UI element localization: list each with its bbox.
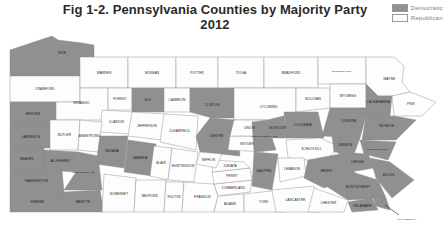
county-label-chester: CHESTER xyxy=(321,201,338,205)
county-label-butler: BUTLER xyxy=(58,133,72,137)
county-label-forest: FOREST xyxy=(113,97,127,101)
pa-county-map: ERIECRAWFORDMERCERLAWRENCEBEAVERWASHINGT… xyxy=(0,0,446,225)
county-label-snyder: SNYDER xyxy=(240,142,254,146)
county-label-huntingdon: HUNTINGDON xyxy=(172,164,195,168)
county-label-fulton: FULTON xyxy=(167,195,181,199)
county-label-wyoming: WYOMING xyxy=(340,94,357,98)
county-label-northampton: NORTHAMPTON xyxy=(367,148,388,151)
county-label-mifflin: MIFFLIN xyxy=(202,158,216,162)
county-label-monroe: MONROE xyxy=(379,124,394,128)
county-label-cameron: CAMERON xyxy=(169,98,187,102)
county-label-adams: ADAMS xyxy=(224,202,236,206)
county-label-indiana: INDIANA xyxy=(105,149,119,153)
county-label-washington: WASHINGTON xyxy=(25,179,48,183)
county-label-susquehanna: SUSQUEHANNA xyxy=(332,70,353,73)
county-label-lebanon: LEBANON xyxy=(284,167,301,171)
county-label-tioga: TIOGA xyxy=(236,71,247,75)
county-label-lackawanna: LACKAWANNA xyxy=(367,100,391,104)
county-label-clearfield: CLEARFIELD xyxy=(169,129,190,133)
county-label-westmoreland: WESTMORELAND xyxy=(72,171,95,174)
county-label-lycoming: LYCOMING xyxy=(260,105,278,109)
county-label-york: YORK xyxy=(259,200,269,204)
county-label-somerset: SOMERSET xyxy=(110,192,129,196)
county-label-crawford: CRAWFORD xyxy=(35,87,55,91)
county-label-franklin: FRANKLIN xyxy=(194,195,211,199)
county-label-montour: MONTOUR xyxy=(269,126,287,130)
county-label-philadelphia: PHILADELPHIA xyxy=(397,218,416,221)
county-label-bucks: BUCKS xyxy=(383,173,394,177)
county-label-fayette: FAYETTE xyxy=(76,200,91,204)
county-label-clinton: CLINTON xyxy=(205,103,220,107)
county-label-cumberland: CUMBERLAND xyxy=(222,186,246,190)
county-label-sullivan: SULLIVAN xyxy=(305,97,322,101)
county-label-cambria: CAMBRIA xyxy=(132,156,148,160)
county-label-blair: BLAIR xyxy=(156,161,166,165)
county-label-bedford: BEDFORD xyxy=(142,194,159,198)
county-label-allegheny: ALLEGHENY xyxy=(50,159,71,163)
county-label-venango: VENANGO xyxy=(73,101,90,105)
county-label-northumberland: NORTHUMBERLAND xyxy=(251,135,277,138)
county-label-warren: WARREN xyxy=(97,71,112,75)
county-label-elk: ELK xyxy=(145,98,152,102)
county-label-mckean: MCKEAN xyxy=(145,71,160,75)
county-label-erie: ERIE xyxy=(58,51,66,55)
county-label-schuylkill: SCHUYLKILL xyxy=(301,147,322,151)
county-label-columbia: COLUMBIA xyxy=(294,123,312,127)
county-label-lehigh: LEHIGH xyxy=(351,160,364,164)
county-label-beaver: BEAVER xyxy=(20,157,34,161)
county-label-berks: BERKS xyxy=(321,169,332,173)
county-label-carbon: CARBON xyxy=(338,143,353,147)
county-label-clarion: CLARION xyxy=(109,120,124,124)
county-label-lancaster: LANCASTER xyxy=(285,198,306,202)
county-label-jefferson: JEFFERSON xyxy=(137,124,157,128)
county-label-perry: PERRY xyxy=(226,174,238,178)
county-label-bradford: BRADFORD xyxy=(282,71,301,75)
county-label-mercer: MERCER xyxy=(26,112,41,116)
county-label-wayne: WAYNE xyxy=(383,77,395,81)
county-label-armstrong: ARMSTRONG xyxy=(79,134,101,138)
county-label-dauphin: DAUPHIN xyxy=(256,169,272,173)
county-label-luzerne: LUZERNE xyxy=(341,119,357,123)
county-label-union: UNION xyxy=(244,126,255,130)
county-label-centre: CENTRE xyxy=(210,134,224,138)
county-label-potter: POTTER xyxy=(190,71,204,75)
county-label-montgomery: MONTGOMERY xyxy=(346,185,371,189)
county-label-pike: PIKE xyxy=(407,102,415,106)
county-label-juniata: JUNIATA xyxy=(223,164,237,168)
county-label-lawrence: LAWRENCE xyxy=(22,135,41,139)
county-label-delaware: DELAWARE xyxy=(353,204,371,208)
figure-page: Fig 1-2. Pennsylvania Counties by Majori… xyxy=(0,0,446,225)
county-label-greene: GREENE xyxy=(30,200,44,204)
philadelphia-pointer-line xyxy=(385,205,399,215)
